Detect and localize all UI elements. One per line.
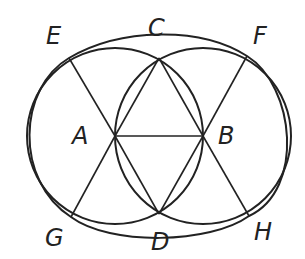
segment-bc: [159, 58, 203, 136]
label-c: C: [148, 16, 165, 40]
label-h: H: [254, 220, 272, 244]
label-d: D: [151, 230, 169, 254]
label-a: A: [72, 124, 88, 148]
segment-ac: [115, 58, 159, 136]
segment-ad: [115, 136, 159, 214]
label-e: E: [46, 24, 61, 48]
geometry-diagram: E C F A B G D H: [0, 0, 305, 259]
label-b: B: [218, 124, 234, 148]
label-f: F: [253, 24, 267, 48]
segment-bd: [159, 136, 203, 214]
label-g: G: [45, 226, 64, 250]
